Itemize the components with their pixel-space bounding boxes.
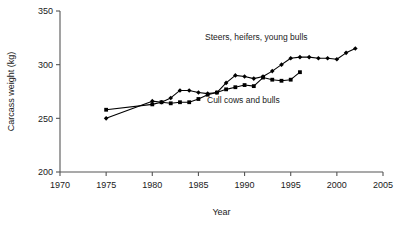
x-tick-label: 1995 [281, 180, 301, 190]
series-point-marker [215, 91, 219, 95]
x-tick-label: 1970 [50, 180, 70, 190]
series-point-marker [270, 78, 274, 82]
y-tick-label: 350 [38, 6, 53, 16]
series-point-marker [233, 85, 237, 89]
series-2 [104, 70, 302, 111]
series-point-marker [224, 87, 228, 91]
series-point-marker [160, 100, 164, 104]
series-annotation-label: Cull cows and bulls [207, 95, 280, 105]
chart-figure: 2002503003501970197519801985199019952000… [0, 0, 394, 227]
series-point-marker [242, 74, 247, 79]
series-point-marker [243, 83, 247, 87]
series-point-marker [252, 76, 257, 81]
x-axis-title: Year [212, 207, 230, 217]
series-point-marker [196, 90, 201, 95]
series-point-marker [150, 102, 154, 106]
series-point-marker [104, 108, 108, 112]
series-point-marker [325, 56, 330, 61]
x-tick-label: 2000 [327, 180, 347, 190]
x-tick-label: 1975 [96, 180, 116, 190]
y-tick-label: 200 [38, 167, 53, 177]
series-point-marker [197, 97, 201, 101]
series-point-marker [307, 55, 312, 60]
x-tick-label: 1990 [235, 180, 255, 190]
y-tick-label: 300 [38, 60, 53, 70]
series-point-marker [104, 116, 109, 121]
series-point-marker [316, 56, 321, 61]
x-tick-label: 2005 [373, 180, 393, 190]
series-point-marker [298, 55, 303, 60]
series-point-marker [353, 46, 358, 51]
x-tick-label: 1980 [142, 180, 162, 190]
series-point-marker [298, 70, 302, 74]
series-point-marker [187, 88, 192, 93]
y-axis-title: Carcass weight (kg) [6, 52, 16, 132]
series-point-marker [261, 76, 265, 80]
series-point-marker [187, 100, 191, 104]
series-point-marker [252, 84, 256, 88]
series-point-marker [178, 100, 182, 104]
series-1 [104, 46, 358, 120]
x-tick-label: 1985 [188, 180, 208, 190]
series-point-marker [280, 79, 284, 83]
series-annotation-label: Steers, heifers, young bulls [205, 32, 308, 42]
series-point-marker [169, 101, 173, 105]
series-point-marker [289, 78, 293, 82]
y-tick-label: 250 [38, 114, 53, 124]
chart-canvas: 2002503003501970197519801985199019952000… [0, 0, 394, 227]
